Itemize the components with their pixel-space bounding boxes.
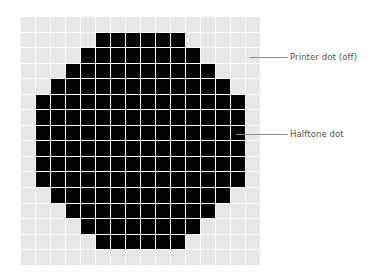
printer-dot-on xyxy=(141,79,156,95)
printer-dot-on xyxy=(231,95,246,111)
printer-dot-off xyxy=(36,219,51,235)
printer-dot-on xyxy=(51,188,66,204)
printer-dot-off xyxy=(216,250,231,266)
printer-dot-off xyxy=(231,79,246,95)
printer-dot-on xyxy=(231,141,246,157)
printer-dot-off xyxy=(171,17,186,33)
printer-dot-on xyxy=(201,172,216,188)
printer-dot-off xyxy=(36,17,51,33)
printer-dot-on xyxy=(111,64,126,80)
printer-dot-on xyxy=(96,48,111,64)
printer-dot-off xyxy=(246,33,261,49)
printer-dot-on xyxy=(96,95,111,111)
printer-dot-on xyxy=(51,79,66,95)
printer-dot-off xyxy=(21,95,36,111)
printer-dot-on xyxy=(186,110,201,126)
printer-dot-on xyxy=(186,157,201,173)
printer-dot-off xyxy=(201,48,216,64)
printer-dot-on xyxy=(126,79,141,95)
printer-dot-off xyxy=(186,250,201,266)
printer-dot-off xyxy=(186,235,201,251)
printer-dot-on xyxy=(156,110,171,126)
printer-dot-off xyxy=(186,33,201,49)
printer-dot-off xyxy=(21,64,36,80)
printer-dot-on xyxy=(81,64,96,80)
printer-dot-on xyxy=(96,188,111,204)
printer-dot-off xyxy=(66,235,81,251)
printer-dot-on xyxy=(66,141,81,157)
printer-dot-off xyxy=(66,219,81,235)
printer-dot-on xyxy=(36,95,51,111)
printer-dot-on xyxy=(126,219,141,235)
printer-dot-on xyxy=(171,79,186,95)
printer-dot-off xyxy=(36,235,51,251)
printer-dot-off xyxy=(231,33,246,49)
printer-dot-off xyxy=(231,64,246,80)
printer-dot-on xyxy=(141,188,156,204)
printer-dot-on xyxy=(231,110,246,126)
printer-dot-on xyxy=(141,157,156,173)
printer-dot-off xyxy=(51,204,66,220)
printer-dot-on xyxy=(171,141,186,157)
printer-dot-off xyxy=(36,188,51,204)
printer-dot-off xyxy=(216,48,231,64)
printer-dot-on xyxy=(171,204,186,220)
printer-dot-off xyxy=(156,17,171,33)
printer-dot-on xyxy=(141,141,156,157)
printer-dot-on xyxy=(171,172,186,188)
printer-dot-on xyxy=(201,64,216,80)
printer-dot-on xyxy=(51,157,66,173)
printer-dot-on xyxy=(141,219,156,235)
printer-dot-off xyxy=(21,17,36,33)
printer-dot-off xyxy=(216,64,231,80)
printer-dot-on xyxy=(96,79,111,95)
printer-dot-off xyxy=(51,219,66,235)
printer-dot-off xyxy=(171,250,186,266)
label-printer-dot-off: Printer dot (off) xyxy=(290,52,357,62)
printer-dot-on xyxy=(171,110,186,126)
printer-dot-on xyxy=(96,172,111,188)
printer-dot-on xyxy=(51,110,66,126)
printer-dot-on xyxy=(66,126,81,142)
printer-dot-on xyxy=(171,157,186,173)
printer-dot-on xyxy=(186,48,201,64)
printer-dot-on xyxy=(156,157,171,173)
printer-dot-on xyxy=(171,126,186,142)
printer-dot-on xyxy=(171,48,186,64)
printer-dot-on xyxy=(111,141,126,157)
printer-dot-on xyxy=(126,172,141,188)
printer-dot-on xyxy=(201,188,216,204)
printer-dot-off xyxy=(246,219,261,235)
printer-dot-off xyxy=(51,235,66,251)
printer-dot-on xyxy=(141,95,156,111)
printer-dot-off xyxy=(246,79,261,95)
printer-dot-on xyxy=(66,157,81,173)
printer-dot-on xyxy=(156,48,171,64)
printer-dot-on xyxy=(66,64,81,80)
printer-dot-on xyxy=(156,126,171,142)
printer-dot-on xyxy=(156,141,171,157)
printer-dot-off xyxy=(36,250,51,266)
printer-dot-on xyxy=(141,235,156,251)
printer-dot-off xyxy=(81,250,96,266)
printer-dot-off xyxy=(21,219,36,235)
printer-dot-on xyxy=(156,79,171,95)
printer-dot-on xyxy=(141,48,156,64)
printer-dot-on xyxy=(216,126,231,142)
printer-dot-on xyxy=(216,157,231,173)
printer-dot-off xyxy=(216,204,231,220)
printer-dot-on xyxy=(66,79,81,95)
printer-dot-on xyxy=(171,33,186,49)
printer-dot-off xyxy=(36,48,51,64)
printer-dot-on xyxy=(81,110,96,126)
printer-dot-off xyxy=(246,204,261,220)
printer-dot-on xyxy=(81,126,96,142)
printer-dot-on xyxy=(96,64,111,80)
printer-dot-off xyxy=(81,17,96,33)
printer-dot-off xyxy=(141,17,156,33)
printer-dot-on xyxy=(156,95,171,111)
printer-dot-off xyxy=(36,204,51,220)
printer-dot-on xyxy=(171,235,186,251)
printer-dot-on xyxy=(126,110,141,126)
printer-dot-off xyxy=(21,157,36,173)
